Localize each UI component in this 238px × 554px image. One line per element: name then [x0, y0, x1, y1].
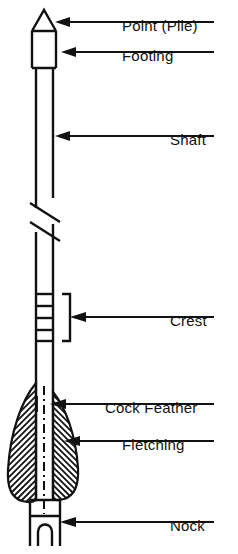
diagram-page: Point (Pile) Footing Shaft Crest Cock Fe… [0, 0, 238, 554]
nock-notch [38, 525, 52, 547]
label-cock-feather: Cock Feather [105, 400, 197, 415]
crest-bracket [62, 294, 70, 341]
crest-bands [36, 294, 53, 341]
label-fletching: Fletching [122, 437, 185, 452]
arrow-parts-diagram [0, 0, 238, 554]
label-point-pile: Point (Pile) [122, 18, 198, 33]
label-shaft: Shaft [170, 132, 206, 147]
fletching-right [50, 392, 87, 500]
footing-shape [32, 31, 56, 68]
label-footing: Footing [122, 48, 173, 63]
label-crest: Crest [170, 313, 207, 328]
label-nock: Nock [170, 518, 205, 533]
shaft-lower [36, 224, 53, 500]
fletching-left [1, 380, 40, 502]
point-pile-shape [32, 10, 56, 31]
shaft-upper [36, 68, 53, 208]
break-symbol [30, 203, 60, 241]
